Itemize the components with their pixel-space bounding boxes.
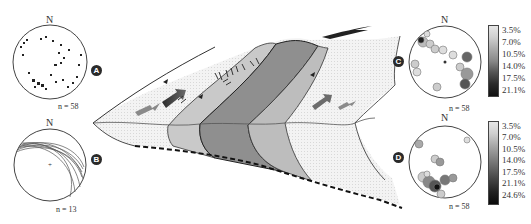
legend-tick: 7.0% (502, 37, 521, 47)
panel-d: N n = 58 (405, 118, 485, 208)
svg-text:+: + (48, 161, 52, 169)
panel-a: N n = 58 (10, 14, 90, 104)
legend-bar (488, 25, 499, 97)
stereonet-a (10, 24, 90, 104)
legend-tick: 3.5% (502, 121, 521, 131)
sample-count: n = 13 (56, 205, 77, 214)
panel-badge-b: B (91, 154, 102, 165)
stereonet-d (405, 122, 485, 202)
sample-count: n = 58 (58, 102, 79, 111)
legend-tick: 21.1% (502, 85, 525, 95)
panel-c: N n = 58 (405, 14, 485, 104)
legend-tick: 24.6% (502, 190, 525, 200)
legend-tick: 14.0% (502, 61, 525, 71)
legend-tick: 17.5% (502, 167, 525, 177)
sample-count: n = 58 (449, 104, 470, 113)
slip-arrow-icon (322, 26, 372, 39)
legend-tick: 10.5% (502, 144, 525, 154)
panel-badge-a: A (91, 65, 102, 76)
legend-tick: 3.5% (502, 25, 521, 35)
panel-badge-c: C (393, 56, 404, 67)
sample-count: n = 58 (449, 202, 470, 211)
legend-bar (488, 121, 499, 205)
stereonet-c (405, 22, 485, 102)
legend-tick: 14.0% (502, 155, 525, 165)
legend-tick: 21.1% (502, 178, 525, 188)
stereonet-b: + (10, 127, 90, 207)
panel-badge-d: D (393, 152, 404, 163)
thrust-tooth (163, 79, 168, 84)
legend-tick: 10.5% (502, 49, 525, 59)
panel-b: N + n = 13 (10, 117, 90, 207)
legend-tick: 17.5% (502, 73, 525, 83)
legend-tick: 7.0% (502, 132, 521, 142)
